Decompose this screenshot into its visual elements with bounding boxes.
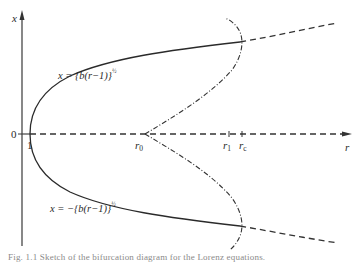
r1-sub: 1 xyxy=(227,144,231,153)
rc-sub: c xyxy=(243,144,246,153)
r0-sub: 0 xyxy=(139,144,143,153)
r-axis-arrow-icon xyxy=(342,132,352,137)
upper-stable-branch xyxy=(30,42,240,134)
x-axis-label: x xyxy=(12,13,17,24)
origin-label: 0 xyxy=(11,129,17,140)
lower-eq-lhs: x = − xyxy=(50,203,74,214)
rc-label: rc xyxy=(239,140,247,153)
figure-caption: Fig. 1.1 Sketch of the bifurcation diagr… xyxy=(8,252,265,262)
x-axis-arrow-icon xyxy=(20,10,25,20)
lower-eq-exponent: ½ xyxy=(111,201,116,207)
lower-eq-body: {b(r−1)} xyxy=(74,203,111,214)
upper-eq-body: {b(r−1)} xyxy=(75,70,112,81)
upper-dashdot-curve xyxy=(145,18,242,134)
r-axis-label: r xyxy=(345,142,349,153)
r0-label: r0 xyxy=(135,140,143,153)
upper-eq-lhs: x = xyxy=(58,70,75,81)
upper-unstable-branch xyxy=(240,23,337,42)
r-one-label: 1 xyxy=(27,140,33,151)
upper-eq-exponent: ½ xyxy=(112,68,117,74)
lower-branch-equation: x = −{b(r−1)}½ xyxy=(50,201,116,215)
r1-label: r1 xyxy=(223,140,231,153)
lower-unstable-branch xyxy=(240,226,338,243)
upper-branch-equation: x = {b(r−1)}½ xyxy=(58,68,117,82)
